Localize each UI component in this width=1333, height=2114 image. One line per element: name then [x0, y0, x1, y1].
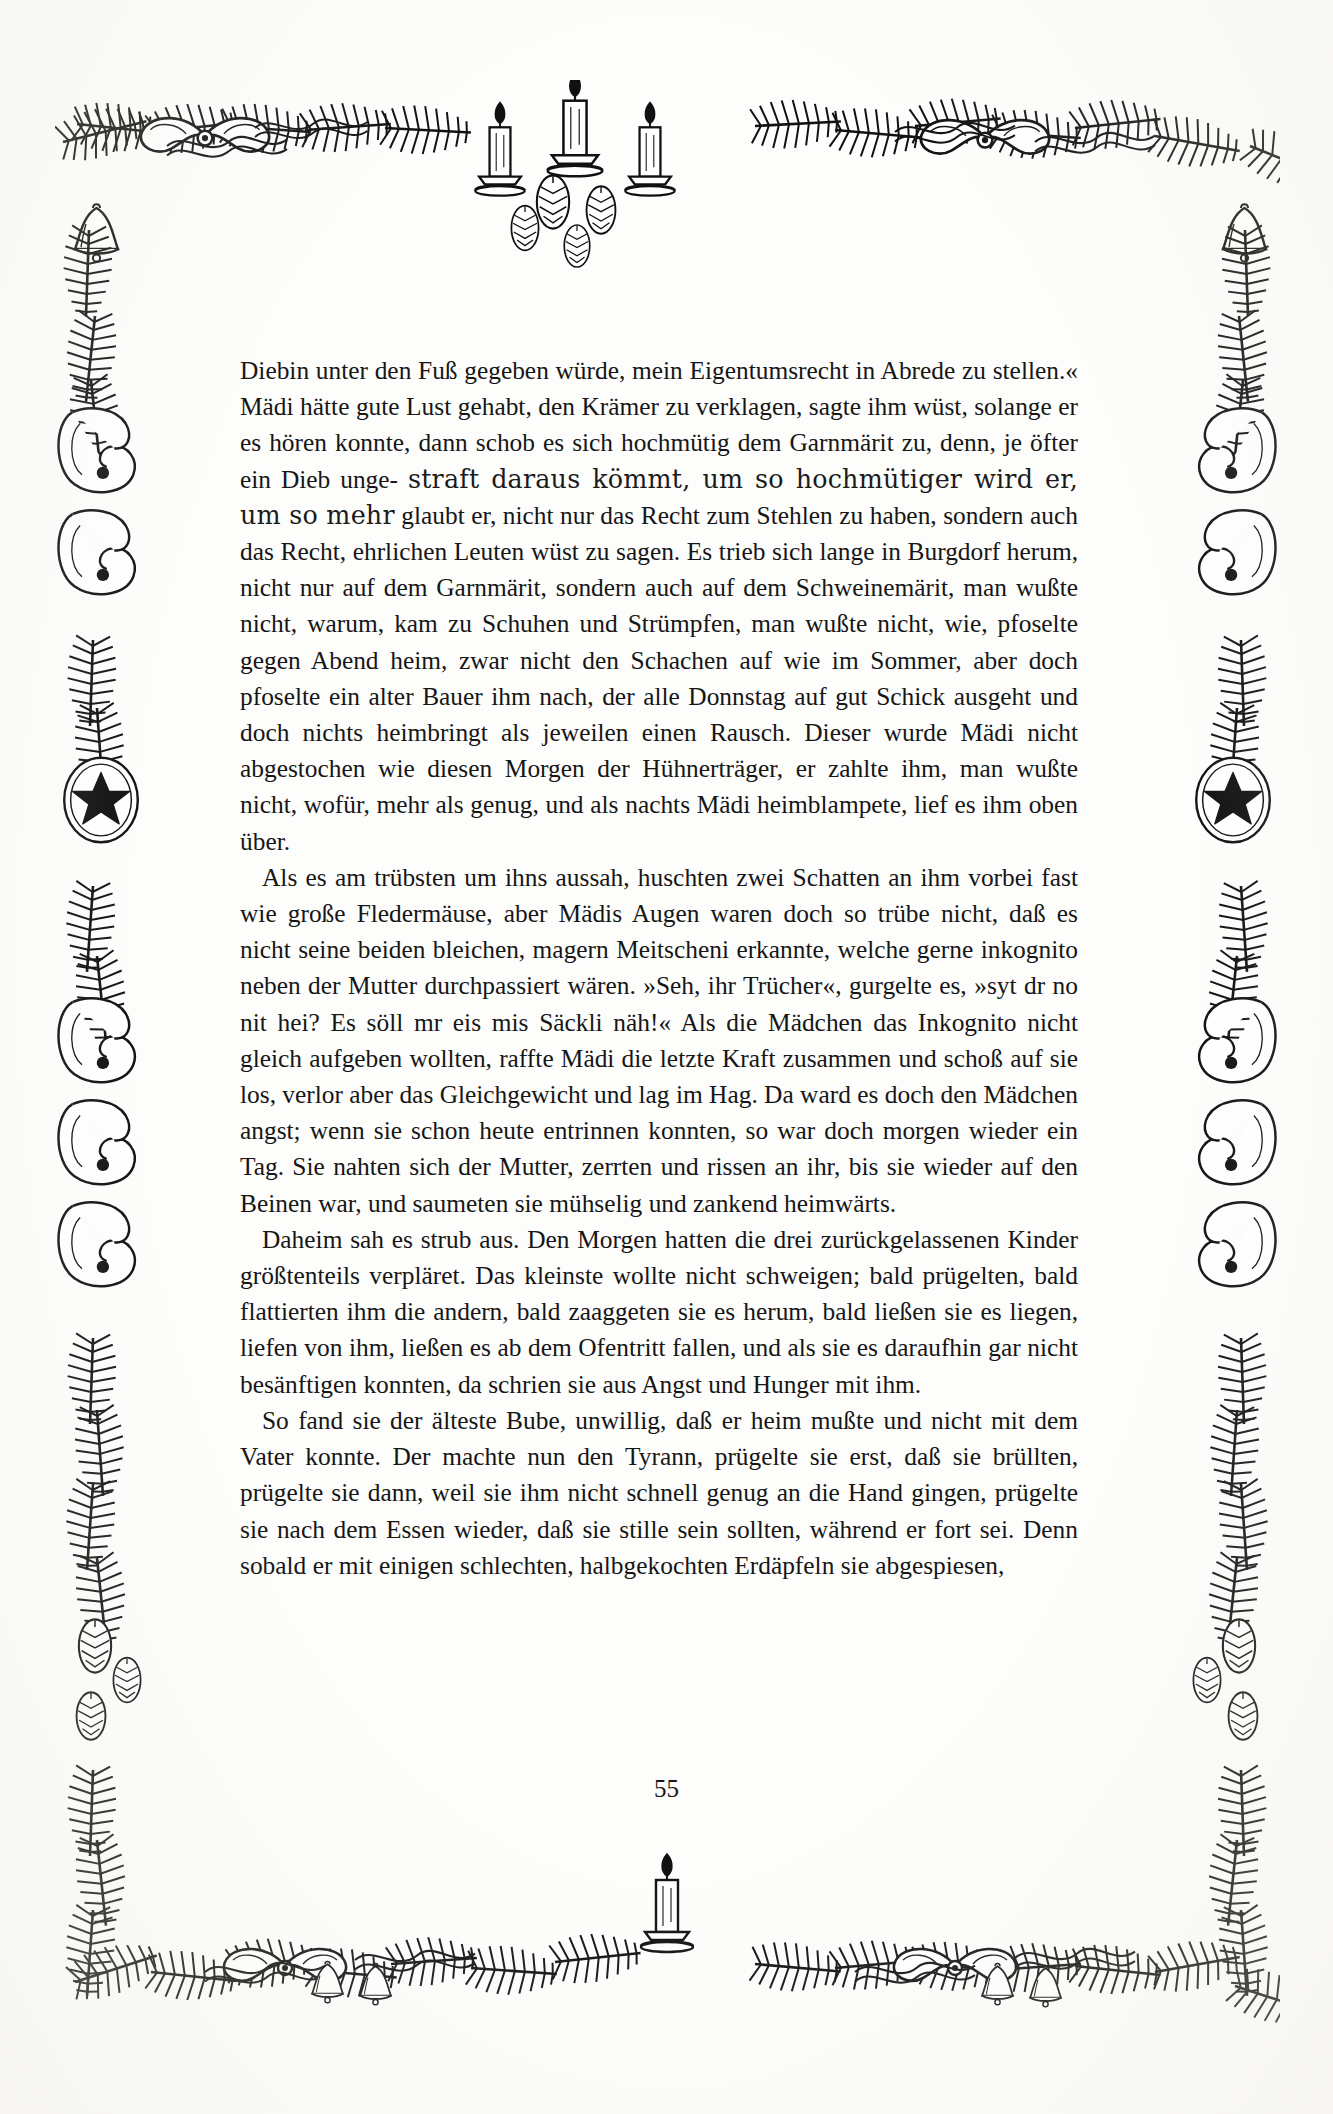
- border-right: [1193, 204, 1275, 1997]
- border-top: [55, 80, 1280, 267]
- paragraph-4: So fand sie der älteste Bube, unwillig, …: [240, 1402, 1078, 1583]
- book-page: Diebin unter den Fuß gegeben würde, mein…: [0, 0, 1333, 2114]
- paragraph-1-part-b: glaubt er, nicht nur das Recht zum Stehl…: [240, 501, 1078, 855]
- border-bottom: [64, 1854, 1280, 2030]
- page-number: 55: [0, 1775, 1333, 1803]
- border-left: [58, 204, 140, 1997]
- paragraph-3: Daheim sah es strub aus. Den Morgen hatt…: [240, 1221, 1078, 1402]
- paragraph-2: Als es am trübsten um ihns aussah, husch…: [240, 859, 1078, 1221]
- body-text: Diebin unter den Fuß gegeben würde, mein…: [240, 352, 1078, 1583]
- paragraph-1: Diebin unter den Fuß gegeben würde, mein…: [240, 352, 1078, 859]
